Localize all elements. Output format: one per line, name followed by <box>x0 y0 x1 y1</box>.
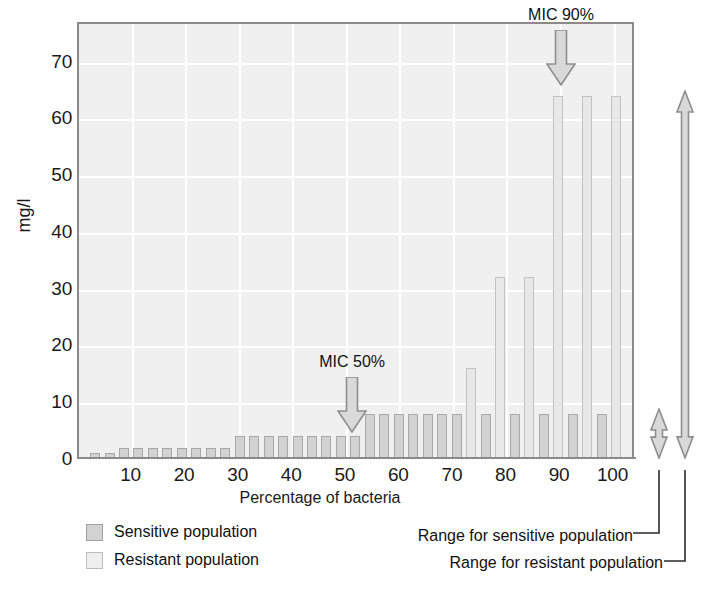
bar-sensitive <box>293 436 303 459</box>
bar-sensitive <box>307 436 317 459</box>
y-axis-label: mg/l <box>14 186 35 246</box>
bar-sensitive <box>249 436 259 459</box>
y-tick-label: 20 <box>2 334 72 356</box>
mic-arrow-icon <box>337 377 367 437</box>
bar-sensitive <box>568 414 578 459</box>
bar-sensitive <box>408 414 418 459</box>
x-tick-label: 70 <box>442 464 463 486</box>
bar-resistant <box>582 96 592 459</box>
mic90-label: MIC 90% <box>528 6 594 24</box>
legend-item: Resistant population <box>86 548 259 572</box>
bar-sensitive <box>539 414 549 459</box>
gridline-horizontal <box>79 119 632 121</box>
gridline-horizontal <box>79 346 632 348</box>
x-tick-label: 80 <box>495 464 516 486</box>
legend-label: Resistant population <box>114 551 259 569</box>
legend-item: Sensitive population <box>86 520 259 544</box>
bar-resistant <box>495 277 505 459</box>
legend-label: Sensitive population <box>114 523 257 541</box>
bar-sensitive <box>336 436 346 459</box>
x-axis-label: Percentage of bacteria <box>0 489 708 507</box>
bar-resistant <box>553 96 563 459</box>
gridline-horizontal <box>79 290 632 292</box>
gridline-vertical <box>292 24 294 459</box>
bar-resistant <box>611 96 621 459</box>
gridline-vertical <box>239 24 241 459</box>
x-tick-label: 10 <box>120 464 141 486</box>
x-tick-label: 30 <box>227 464 248 486</box>
gridline-vertical <box>399 24 401 459</box>
x-tick-label: 50 <box>334 464 355 486</box>
y-axis-ticks: 010203040506070 <box>0 0 72 597</box>
x-tick-label: 40 <box>281 464 302 486</box>
range-arrow-resistant <box>675 90 695 459</box>
bar-resistant <box>524 277 534 459</box>
range-label-resistant: Range for resistant population <box>450 554 663 572</box>
x-axis-line <box>77 457 636 459</box>
bracket-resistant <box>664 470 685 561</box>
gridline-vertical <box>453 24 455 459</box>
y-tick-label: 40 <box>2 221 72 243</box>
range-arrow-sensitive <box>649 408 669 459</box>
legend-swatch-resistant <box>86 552 103 569</box>
bar-sensitive <box>394 414 404 459</box>
mic-arrow-icon <box>546 30 576 90</box>
gridline-vertical <box>506 24 508 459</box>
gridline-horizontal <box>79 176 632 178</box>
x-axis-label-text: Percentage of bacteria <box>240 489 401 507</box>
y-tick-label: 70 <box>2 51 72 73</box>
bar-sensitive <box>452 414 462 459</box>
bar-sensitive <box>597 414 607 459</box>
bar-sensitive <box>278 436 288 459</box>
legend: Sensitive populationResistant population <box>86 520 259 576</box>
plot-area: MIC 50%MIC 90% <box>77 22 634 459</box>
bar-resistant <box>466 368 476 459</box>
x-tick-label: 100 <box>597 464 628 486</box>
y-tick-label: 60 <box>2 107 72 129</box>
x-tick-label: 20 <box>174 464 195 486</box>
gridline-vertical <box>132 24 134 459</box>
y-tick-label: 50 <box>2 164 72 186</box>
gridline-horizontal <box>79 233 632 235</box>
mic50-label: MIC 50% <box>319 353 385 371</box>
bar-sensitive <box>264 436 274 459</box>
bar-sensitive <box>235 436 245 459</box>
y-tick-label: 30 <box>2 278 72 300</box>
bar-sensitive <box>481 414 491 459</box>
bar-sensitive <box>437 414 447 459</box>
legend-swatch-sensitive <box>86 524 103 541</box>
bar-sensitive <box>350 436 360 459</box>
bar-sensitive <box>423 414 433 459</box>
x-tick-label: 60 <box>388 464 409 486</box>
bar-sensitive <box>321 436 331 459</box>
y-tick-label: 0 <box>2 448 72 470</box>
chart-figure: { "chart_data": { "type": "bar", "title"… <box>0 0 708 597</box>
y-tick-label: 10 <box>2 391 72 413</box>
gridline-vertical <box>185 24 187 459</box>
range-label-sensitive: Range for sensitive population <box>418 527 633 545</box>
bar-sensitive <box>510 414 520 459</box>
x-tick-label: 90 <box>549 464 570 486</box>
bar-sensitive <box>379 414 389 459</box>
